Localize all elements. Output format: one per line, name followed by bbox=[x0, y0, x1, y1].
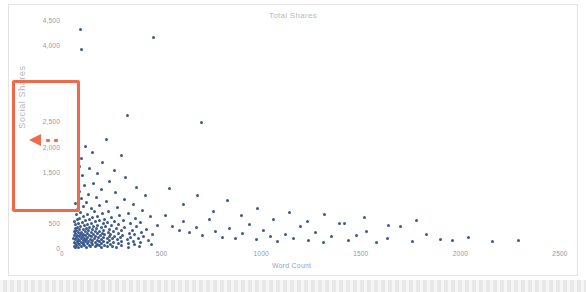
scatter-point bbox=[425, 233, 428, 236]
scatter-point bbox=[112, 230, 115, 233]
scatter-point bbox=[127, 242, 130, 245]
scatter-point bbox=[85, 246, 88, 249]
scatter-point bbox=[93, 210, 96, 213]
scatter-point bbox=[133, 243, 136, 246]
chart-title: Total Shares bbox=[0, 11, 586, 20]
scatter-point bbox=[74, 246, 77, 249]
scatter-point bbox=[96, 215, 99, 218]
y-axis-tick-label: 2,500 bbox=[30, 118, 60, 125]
scatter-point bbox=[91, 216, 94, 219]
scatter-point bbox=[188, 231, 191, 234]
scatter-point bbox=[77, 246, 80, 249]
scatter-point bbox=[84, 219, 87, 222]
scatter-point bbox=[212, 210, 215, 213]
scatter-point bbox=[288, 211, 291, 214]
scatter-point bbox=[127, 246, 130, 249]
scatter-point bbox=[131, 229, 134, 232]
y-axis-tick-label: 4,000 bbox=[30, 42, 60, 49]
scatter-point bbox=[343, 222, 346, 225]
scatter-point bbox=[85, 201, 88, 204]
scatter-point bbox=[116, 206, 119, 209]
scatter-point bbox=[104, 225, 107, 228]
scatter-point bbox=[375, 241, 378, 244]
scatter-point bbox=[87, 193, 90, 196]
scatter-point bbox=[82, 242, 85, 245]
scatter-point bbox=[115, 227, 118, 230]
scatter-point bbox=[234, 237, 237, 240]
scatter-point bbox=[110, 216, 113, 219]
scatter-point bbox=[195, 226, 198, 229]
scatter-point bbox=[201, 234, 204, 237]
scatter-point bbox=[80, 48, 83, 51]
scatter-point bbox=[91, 151, 94, 154]
scatter-point bbox=[129, 236, 132, 239]
scatter-point bbox=[182, 220, 185, 223]
scatter-point bbox=[105, 138, 108, 141]
scatter-point bbox=[83, 184, 86, 187]
scatter-point bbox=[137, 237, 140, 240]
scatter-point bbox=[88, 167, 91, 170]
scatter-point bbox=[355, 234, 358, 237]
scatter-point bbox=[111, 245, 114, 248]
scatter-point bbox=[323, 213, 326, 216]
scatter-point bbox=[100, 246, 103, 249]
scatter-point bbox=[113, 169, 116, 172]
scatter-point bbox=[467, 236, 470, 239]
scatter-point bbox=[106, 221, 109, 224]
x-axis-tick-labels: 05001000150020002500 bbox=[62, 250, 560, 262]
scatter-point bbox=[103, 218, 106, 221]
scatter-point bbox=[81, 174, 84, 177]
scatter-point bbox=[105, 200, 108, 203]
scatter-point bbox=[142, 235, 145, 238]
scatter-point bbox=[108, 180, 111, 183]
scatter-point bbox=[439, 238, 442, 241]
y-axis-tick-label: 1,500 bbox=[30, 169, 60, 176]
scatter-point bbox=[100, 188, 103, 191]
scatter-point bbox=[132, 203, 135, 206]
scatter-point bbox=[127, 212, 130, 215]
y-axis-tick-label: 500 bbox=[30, 219, 60, 226]
scatter-point bbox=[96, 224, 99, 227]
scatter-point bbox=[82, 205, 85, 208]
scatter-point bbox=[95, 244, 98, 247]
scatter-point bbox=[330, 235, 333, 238]
y-axis-tick-label: 4,500 bbox=[30, 17, 60, 24]
scatter-point bbox=[214, 230, 217, 233]
scatter-point bbox=[387, 224, 390, 227]
scatter-point bbox=[145, 228, 148, 231]
scatter-point bbox=[150, 243, 153, 246]
scatter-point bbox=[399, 225, 402, 228]
scatter-point bbox=[122, 219, 125, 222]
scatter-point bbox=[113, 220, 116, 223]
scatter-point bbox=[226, 199, 229, 202]
scatter-point bbox=[95, 196, 98, 199]
scatter-point bbox=[120, 229, 123, 232]
scatter-point bbox=[117, 223, 120, 226]
scatter-point bbox=[77, 178, 80, 181]
scatter-point bbox=[411, 240, 414, 243]
scatter-point bbox=[338, 222, 341, 225]
scatter-point bbox=[134, 217, 137, 220]
scatter-point bbox=[101, 212, 104, 215]
scatter-point bbox=[347, 239, 350, 242]
bottom-scroll-band bbox=[0, 280, 586, 292]
x-axis-title: Word Count bbox=[272, 262, 311, 269]
scatter-point bbox=[241, 232, 244, 235]
scatter-point bbox=[80, 157, 83, 160]
scatter-point bbox=[386, 237, 389, 240]
scatter-point bbox=[256, 207, 259, 210]
scatter-point bbox=[240, 214, 243, 217]
scatter-point bbox=[269, 235, 272, 238]
scatter-point bbox=[114, 191, 117, 194]
x-axis-tick-label: 2000 bbox=[440, 250, 480, 257]
scatter-point bbox=[292, 237, 295, 240]
scatter-point bbox=[363, 216, 366, 219]
annotation-arrow-icon bbox=[29, 134, 43, 147]
scatter-point bbox=[208, 218, 211, 221]
scatter-point bbox=[228, 227, 231, 230]
x-axis-tick-label: 0 bbox=[42, 250, 82, 257]
scatter-point bbox=[101, 161, 104, 164]
scatter-point bbox=[168, 187, 171, 190]
scatter-point bbox=[178, 229, 181, 232]
scatter-point bbox=[86, 213, 89, 216]
